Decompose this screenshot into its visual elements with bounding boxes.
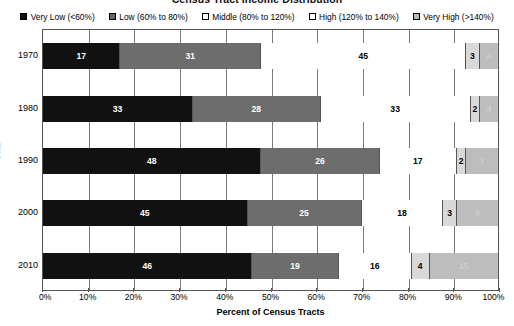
bar-segment: 17 <box>380 148 457 174</box>
bar-segment-value: 2 <box>472 104 477 114</box>
x-axis-tick: 40% <box>216 292 233 302</box>
bar-segment-value: 28 <box>252 104 262 114</box>
bar-segment: 2 <box>471 96 480 122</box>
bar-segment: 16 <box>339 253 412 279</box>
bar-segment-value: 4 <box>487 51 492 61</box>
bar-segment-value: 33 <box>113 104 123 114</box>
y-axis-tick: 1990 <box>0 155 38 165</box>
bar-segment: 9 <box>457 200 498 226</box>
plot-area: 1731453433283324482617274525183946191641… <box>42 29 499 291</box>
legend-item-high: High (120% to 140%) <box>309 12 399 22</box>
high-swatch-icon <box>309 13 316 20</box>
bar-segment-value: 33 <box>390 104 400 114</box>
bar-segment: 4 <box>480 43 498 69</box>
x-axis-tick: 60% <box>308 292 325 302</box>
bar-segment-value: 9 <box>475 208 480 218</box>
bar-segment-value: 17 <box>76 51 86 61</box>
bar-row: 45251839 <box>43 200 498 226</box>
bar-segment: 2 <box>457 148 466 174</box>
bar-segment-value: 46 <box>142 261 152 271</box>
bar-segment-value: 7 <box>480 156 485 166</box>
bar-segment: 4 <box>412 253 430 279</box>
bar-segment: 25 <box>248 200 362 226</box>
bar-segment-value: 16 <box>370 261 380 271</box>
bar-segment: 19 <box>252 253 338 279</box>
bar-segment: 31 <box>120 43 261 69</box>
bar-segment: 45 <box>261 43 466 69</box>
x-axis-tick: 100% <box>483 292 505 302</box>
y-axis-tick: 2010 <box>0 260 38 270</box>
middle-swatch-icon <box>202 13 209 20</box>
low-swatch-icon <box>109 13 116 20</box>
x-axis-title: Percent of Census Tracts <box>42 307 499 317</box>
chart-legend: Very Low (<60%) Low (60% to 80%) Middle … <box>0 9 514 24</box>
bar-segment: 7 <box>466 148 498 174</box>
bar-segment-value: 4 <box>418 261 423 271</box>
bar-segment: 48 <box>43 148 261 174</box>
bar-segment-value: 45 <box>359 51 369 61</box>
bar-segment-value: 3 <box>470 51 475 61</box>
x-axis-tick: 30% <box>170 292 187 302</box>
bar-segment-value: 4 <box>487 104 492 114</box>
bar-segment-value: 45 <box>140 208 150 218</box>
legend-label-low: Low (60% to 80%) <box>119 12 187 22</box>
bar-segment-value: 2 <box>459 156 464 166</box>
legend-label-very-high: Very High (>140%) <box>423 12 494 22</box>
bar-segment: 17 <box>43 43 120 69</box>
legend-item-middle: Middle (80% to 120%) <box>202 12 295 22</box>
bar-row: 48261727 <box>43 148 498 174</box>
bar-segment-value: 31 <box>186 51 196 61</box>
bar-segment-value: 25 <box>299 208 309 218</box>
x-axis-tick: 0% <box>39 292 51 302</box>
bar-row: 461916415 <box>43 253 498 279</box>
bar-segment-value: 48 <box>147 156 157 166</box>
bar-segment-value: 19 <box>290 261 300 271</box>
legend-label-middle: Middle (80% to 120%) <box>212 12 294 22</box>
bar-segment: 3 <box>466 43 480 69</box>
bar-segment: 3 <box>443 200 457 226</box>
x-axis-tick: 80% <box>399 292 416 302</box>
y-axis-tick: 1980 <box>0 103 38 113</box>
bar-segment-value: 18 <box>397 208 407 218</box>
bar-row: 33283324 <box>43 96 498 122</box>
bar-row: 17314534 <box>43 43 498 69</box>
x-axis-tick: 50% <box>262 292 279 302</box>
bar-segment: 33 <box>321 96 471 122</box>
x-axis-tick: 20% <box>125 292 142 302</box>
bar-segment-value: 17 <box>413 156 423 166</box>
x-axis-tick: 70% <box>353 292 370 302</box>
bar-segment: 33 <box>43 96 193 122</box>
bar-segment: 26 <box>261 148 379 174</box>
bar-segment-value: 26 <box>315 156 325 166</box>
legend-label-very-low: Very Low (<60%) <box>31 12 95 22</box>
very-high-swatch-icon <box>413 13 420 20</box>
bar-segment: 28 <box>193 96 320 122</box>
legend-item-low: Low (60% to 80%) <box>109 12 188 22</box>
chart-title: Census Tract Income Distribution <box>0 0 514 5</box>
bar-segment: 4 <box>480 96 498 122</box>
legend-item-very-low: Very Low (<60%) <box>20 12 95 22</box>
x-axis-tick-labels: 0%10%20%30%40%50%60%70%80%90%100% <box>42 292 499 306</box>
bar-segment-value: 3 <box>447 208 452 218</box>
bar-segment: 18 <box>362 200 444 226</box>
bar-segment-value: 15 <box>459 261 469 271</box>
bar-segment: 15 <box>430 253 498 279</box>
y-axis-tick: 1970 <box>0 50 38 60</box>
legend-label-high: High (120% to 140%) <box>319 12 399 22</box>
very-low-swatch-icon <box>20 13 27 20</box>
legend-item-very-high: Very High (>140%) <box>413 12 494 22</box>
x-axis-tick: 90% <box>445 292 462 302</box>
bar-segment: 46 <box>43 253 252 279</box>
bars-layer: 1731453433283324482617274525183946191641… <box>43 30 498 290</box>
x-axis-tick: 10% <box>79 292 96 302</box>
bar-segment: 45 <box>43 200 248 226</box>
y-axis-tick: 2000 <box>0 207 38 217</box>
y-axis-tick-labels: 19701980199020002010 <box>0 29 38 291</box>
